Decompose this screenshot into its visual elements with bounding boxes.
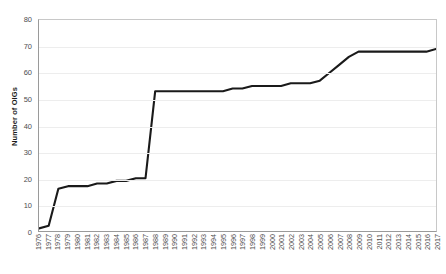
x-tick-label: 1994	[208, 234, 218, 272]
x-tick-label-text: 2011	[374, 234, 383, 249]
x-tick-label: 2001	[276, 234, 286, 272]
x-tick-label: 2006	[325, 234, 335, 272]
x-tick-label: 2007	[335, 234, 345, 272]
x-tick-label: 2004	[305, 234, 315, 272]
x-tick-label-text: 1993	[199, 234, 208, 250]
x-axis-tick-labels: 1976197719781979198019811982198319841985…	[38, 234, 437, 274]
y-tick-label: 80	[14, 15, 36, 24]
gridline	[39, 180, 436, 181]
x-tick-label: 1997	[237, 234, 247, 272]
x-tick-label: 1985	[121, 234, 131, 272]
x-tick-label-text: 2006	[325, 234, 334, 250]
x-tick-label: 1981	[82, 234, 92, 272]
gridline	[39, 47, 436, 48]
gridline	[39, 100, 436, 101]
x-tick-label: 1977	[43, 234, 53, 272]
x-tick-label: 1980	[72, 234, 82, 272]
x-tick-label-text: 1980	[72, 234, 81, 250]
gridline	[39, 206, 436, 207]
x-tick-label: 1992	[189, 234, 199, 272]
x-tick-label: 1999	[257, 234, 267, 272]
y-tick-label: 30	[14, 148, 36, 157]
x-tick-label-text: 1991	[179, 234, 188, 250]
y-tick-label: 60	[14, 68, 36, 77]
gridline	[39, 127, 436, 128]
x-tick-label: 2015	[413, 234, 423, 272]
x-tick-label: 1984	[111, 234, 121, 272]
y-tick-label: 10	[14, 201, 36, 210]
x-tick-label: 1986	[130, 234, 140, 272]
x-tick-label-text: 1986	[131, 234, 140, 250]
x-tick-label-text: 1997	[238, 234, 247, 250]
y-axis-tick-labels: 01020304050607080	[14, 0, 36, 274]
x-tick-label-text: 1995	[218, 234, 227, 250]
y-tick-label: 20	[14, 174, 36, 183]
x-tick-label-text: 2001	[277, 234, 286, 250]
x-tick-label-text: 2003	[296, 234, 305, 250]
x-tick-label-text: 1977	[43, 234, 52, 250]
x-tick-label-text: 1992	[189, 234, 198, 250]
data-line	[39, 20, 436, 231]
x-tick-label: 1995	[218, 234, 228, 272]
x-tick-label: 1978	[52, 234, 62, 272]
x-tick-label: 2008	[344, 234, 354, 272]
x-tick-label: 2012	[383, 234, 393, 272]
x-tick-label-text: 2008	[345, 234, 354, 250]
y-tick-label: 50	[14, 94, 36, 103]
x-tick-label: 2017	[432, 234, 442, 272]
x-tick-label: 1996	[228, 234, 238, 272]
y-tick-label: 70	[14, 41, 36, 50]
x-tick-label-text: 2007	[335, 234, 344, 250]
x-tick-label-text: 1978	[53, 234, 62, 250]
x-tick-label-text: 2005	[316, 234, 325, 250]
x-tick-label: 2013	[393, 234, 403, 272]
x-tick-label-text: 1985	[121, 234, 130, 250]
plot-area	[38, 19, 437, 232]
x-tick-label-text: 1989	[160, 234, 169, 250]
x-tick-label-text: 2000	[267, 234, 276, 250]
x-tick-label: 1988	[150, 234, 160, 272]
x-tick-label: 2000	[267, 234, 277, 272]
series-line	[39, 49, 436, 228]
x-tick-label: 2014	[403, 234, 413, 272]
x-tick-label-text: 2010	[364, 234, 373, 250]
x-tick-label: 2010	[364, 234, 374, 272]
x-tick-label: 1991	[179, 234, 189, 272]
x-tick-label: 1990	[169, 234, 179, 272]
x-tick-label-text: 1988	[150, 234, 159, 250]
x-tick-label-text: 1999	[257, 234, 266, 250]
x-tick-label: 1998	[247, 234, 257, 272]
x-tick-label-text: 1982	[92, 234, 101, 250]
x-tick-label-text: 2004	[306, 234, 315, 250]
x-tick-label-text: 1979	[63, 234, 72, 250]
x-tick-label-text: 1987	[141, 234, 150, 250]
x-tick-label: 1989	[160, 234, 170, 272]
x-tick-label: 1993	[198, 234, 208, 272]
x-tick-label-text: 2012	[384, 234, 393, 250]
x-tick-label-text: 1996	[228, 234, 237, 250]
x-tick-label-text: 2016	[423, 234, 432, 250]
x-tick-label-text: 2002	[287, 234, 296, 250]
gridline	[39, 73, 436, 74]
x-tick-label-text: 1990	[170, 234, 179, 250]
x-tick-label-text: 2015	[413, 234, 422, 250]
x-tick-label-text: 2014	[403, 234, 412, 250]
x-tick-label-text: 1983	[102, 234, 111, 250]
x-tick-label-text: 1976	[34, 234, 43, 250]
x-tick-label: 1976	[33, 234, 43, 272]
x-tick-label: 1982	[91, 234, 101, 272]
x-tick-label: 1979	[62, 234, 72, 272]
x-tick-label: 1983	[101, 234, 111, 272]
x-tick-label-text: 1994	[209, 234, 218, 250]
x-tick-label: 2009	[354, 234, 364, 272]
x-tick-label: 2002	[286, 234, 296, 272]
y-tick-label: 40	[14, 121, 36, 130]
x-tick-label: 2003	[296, 234, 306, 272]
x-tick-label-text: 1981	[82, 234, 91, 250]
x-tick-label: 2011	[374, 234, 384, 272]
x-tick-label-text: 1998	[248, 234, 257, 250]
x-tick-label-text: 1984	[111, 234, 120, 250]
chart-screenshot: Number of OIGs 01020304050607080 1976197…	[0, 0, 446, 274]
x-tick-label: 2005	[315, 234, 325, 272]
x-tick-label: 1987	[140, 234, 150, 272]
